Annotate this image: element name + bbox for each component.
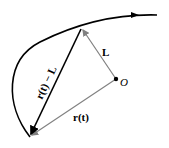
vector-L (83, 30, 116, 79)
origin-point (114, 77, 118, 81)
label-r-t: r(t) (73, 111, 89, 124)
label-origin: O (120, 76, 128, 88)
vector-diagram: L O r(t) r(t) − L (0, 0, 169, 148)
curve-direction-arrow-icon (131, 12, 139, 18)
label-L: L (102, 46, 109, 58)
